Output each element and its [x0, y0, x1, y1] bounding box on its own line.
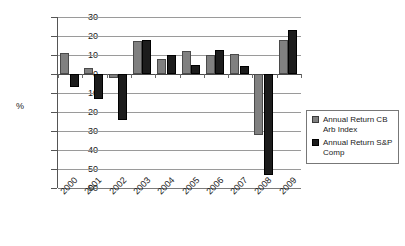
bar-2005-series-1	[191, 65, 200, 74]
legend-swatch-icon-series-0	[312, 116, 319, 123]
bar-2008-series-0	[254, 74, 263, 135]
category-tick-mark	[107, 74, 108, 78]
bar-chart: % 3020100102030405060 200020012002200320…	[0, 0, 405, 246]
bar-2009-series-1	[288, 30, 297, 74]
bar-2003-series-1	[142, 40, 151, 74]
legend-label-series-1: Annual Return S&PComp	[323, 138, 392, 158]
category-tick-mark	[204, 74, 205, 78]
bar-2006-series-1	[215, 50, 224, 74]
bar-2004-series-1	[167, 55, 176, 74]
bar-group	[82, 17, 106, 188]
category-tick-mark	[82, 74, 83, 78]
x-axis-tick-labels: 2000200120022003200420052006200720082009	[57, 190, 300, 240]
bar-2007-series-0	[230, 54, 239, 74]
bar-2002-series-1	[118, 74, 127, 120]
category-tick-mark	[301, 74, 302, 78]
bar-2005-series-0	[182, 51, 191, 74]
category-tick-mark	[58, 74, 59, 78]
bars-layer	[58, 17, 301, 188]
bar-group	[180, 17, 204, 188]
category-tick-mark	[277, 74, 278, 78]
bar-group	[155, 17, 179, 188]
bar-2007-series-1	[240, 66, 249, 74]
category-tick-mark	[131, 74, 132, 78]
bar-group	[58, 17, 82, 188]
legend-item-sp-comp: Annual Return S&PComp	[311, 138, 394, 158]
bar-group	[204, 17, 228, 188]
bar-2001-series-0	[84, 68, 93, 74]
legend: Annual Return CBArb Index Annual Return …	[306, 110, 399, 164]
bar-2009-series-0	[279, 40, 288, 74]
legend-item-cb-arb-index: Annual Return CBArb Index	[311, 115, 394, 135]
bar-group	[277, 17, 301, 188]
bar-2001-series-1	[94, 74, 103, 99]
bar-group	[131, 17, 155, 188]
bar-2004-series-0	[157, 59, 166, 74]
category-tick-mark	[155, 74, 156, 78]
bar-group	[252, 17, 276, 188]
y-axis-tick-mark	[51, 188, 57, 189]
y-axis-label: %	[16, 101, 24, 111]
legend-label-series-0: Annual Return CBArb Index	[323, 115, 387, 135]
bar-2000-series-1	[70, 74, 79, 87]
bar-2002-series-0	[109, 74, 118, 78]
category-tick-mark	[180, 74, 181, 78]
bar-group	[228, 17, 252, 188]
bar-group	[107, 17, 131, 188]
category-tick-mark	[228, 74, 229, 78]
category-tick-mark	[252, 74, 253, 78]
bar-2008-series-1	[264, 74, 273, 175]
bar-2003-series-0	[133, 41, 142, 74]
legend-swatch-icon-series-1	[312, 139, 319, 146]
bar-2000-series-0	[60, 53, 69, 74]
bar-2006-series-0	[206, 55, 215, 74]
plot-area	[57, 17, 300, 188]
